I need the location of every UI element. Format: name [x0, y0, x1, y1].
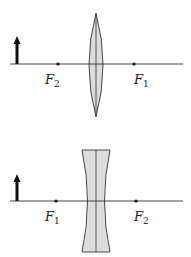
- object-arrow: [14, 174, 21, 201]
- object-arrow: [14, 36, 21, 64]
- focal-point-right: [132, 62, 135, 65]
- lens-diagram: F2 F1 F1 F2: [0, 0, 191, 257]
- focus-label-left: F2: [44, 72, 60, 89]
- focus-label-right: F2: [133, 209, 149, 226]
- converging-lens-figure: F2 F1: [10, 13, 183, 117]
- focal-point-right: [134, 199, 137, 202]
- focus-label-left: F1: [44, 209, 60, 226]
- focus-label-right: F1: [133, 72, 149, 89]
- diverging-lens-figure: F1 F2: [10, 150, 183, 252]
- focal-point-left: [54, 199, 57, 202]
- focal-point-left: [56, 62, 59, 65]
